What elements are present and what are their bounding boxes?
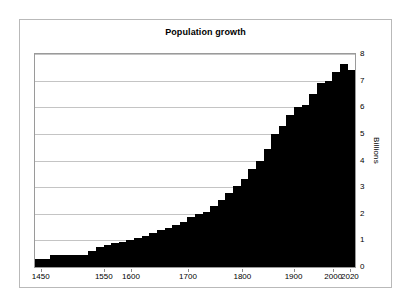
y-axis-tick-label: 6 xyxy=(360,103,364,111)
x-axis-tick-label: 1550 xyxy=(95,272,113,281)
y-axis-tick-label: 7 xyxy=(360,77,364,85)
x-axis-tick-label: 1450 xyxy=(32,272,50,281)
y-axis-tick-label: 8 xyxy=(360,50,364,58)
y-axis-tick-label: 1 xyxy=(360,236,364,244)
chart-figure: Population growth 012345678 Billions 145… xyxy=(19,19,392,288)
y-axis-tick-label: 0 xyxy=(360,263,364,271)
bar-series xyxy=(35,54,355,267)
x-axis-tick-label: 1600 xyxy=(122,272,140,281)
plot-area xyxy=(34,53,356,268)
y-axis-tick-label: 2 xyxy=(360,210,364,218)
bar xyxy=(347,70,355,267)
y-axis-tick-label: 3 xyxy=(360,183,364,191)
x-axis-tick-label: 2020 xyxy=(341,272,359,281)
x-axis: 14501550160017001800190020002020 xyxy=(34,269,356,285)
y-axis-tick-label: 4 xyxy=(360,157,364,165)
x-axis-tick-label: 1800 xyxy=(233,272,251,281)
y-axis-title: Billions xyxy=(372,137,381,164)
x-axis-tick-label: 1900 xyxy=(285,272,303,281)
chart-title: Population growth xyxy=(20,27,391,37)
y-axis-tick-label: 5 xyxy=(360,130,364,138)
x-axis-tick-label: 1700 xyxy=(179,272,197,281)
x-axis-tick-label: 2000 xyxy=(324,272,342,281)
